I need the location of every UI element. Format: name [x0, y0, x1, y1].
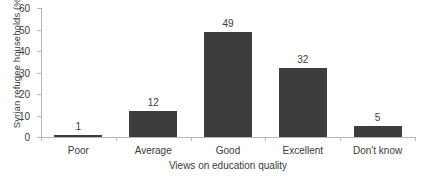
- bar: [129, 111, 177, 137]
- bar: [354, 126, 402, 137]
- x-axis-tick: [116, 137, 117, 141]
- bar-value-label: 49: [222, 18, 233, 29]
- x-axis-line: [41, 137, 415, 138]
- y-axis-tick-label: 60: [19, 3, 30, 14]
- bar: [204, 32, 252, 137]
- bar-value-label: 12: [148, 97, 159, 108]
- plot-area: 0102030405060 11249325 PoorAverageGoodEx…: [41, 8, 415, 137]
- x-axis-category-label: Excellent: [283, 145, 324, 156]
- y-axis-tick: 30: [37, 73, 41, 74]
- y-axis-tick-label: 20: [19, 89, 30, 100]
- y-axis-tick: 20: [37, 94, 41, 95]
- bar-value-label: 32: [297, 54, 308, 65]
- y-axis-tick: 10: [37, 116, 41, 117]
- bar: [279, 68, 327, 137]
- y-axis-tick-label: 10: [19, 110, 30, 121]
- bar: [54, 135, 102, 137]
- x-axis-category-label: Don't know: [353, 145, 402, 156]
- y-axis-tick-label: 50: [19, 24, 30, 35]
- y-axis-line: [41, 8, 42, 137]
- x-axis-tick: [41, 137, 42, 141]
- x-axis-tick: [340, 137, 341, 141]
- x-axis-category-label: Good: [216, 145, 240, 156]
- y-axis-tick: 60: [37, 8, 41, 9]
- x-axis-category-label: Average: [135, 145, 172, 156]
- x-axis-title: Views on education quality: [41, 160, 415, 171]
- y-axis-tick-label: 0: [24, 132, 30, 143]
- x-axis-category-label: Poor: [68, 145, 89, 156]
- bar-value-label: 5: [375, 112, 381, 123]
- y-axis-tick: 40: [37, 51, 41, 52]
- y-axis-tick-label: 40: [19, 46, 30, 57]
- x-axis-tick: [415, 137, 416, 141]
- bar-chart-figure: Syrian refugee households (%) 0102030405…: [0, 0, 421, 178]
- y-axis-tick-label: 30: [19, 67, 30, 78]
- x-axis-tick: [265, 137, 266, 141]
- bar-value-label: 1: [76, 121, 82, 132]
- y-axis-tick: 50: [37, 30, 41, 31]
- x-axis-tick: [191, 137, 192, 141]
